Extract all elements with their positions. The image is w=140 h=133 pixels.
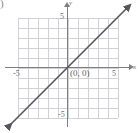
coordinate-plane-figure: ) (0, 0, 140, 133)
y-axis-label: y (69, 0, 72, 7)
y-tick-label-negative-5: -5 (58, 111, 65, 119)
x-axis-label: x (133, 64, 136, 71)
y-tick-label-positive-5: 5 (60, 13, 64, 21)
plotted-line-graphic (0, 0, 140, 133)
x-tick-label-negative-5: -5 (13, 70, 20, 78)
line-y-equals-x (9, 7, 128, 126)
x-tick-label-positive-5: 5 (112, 70, 116, 78)
origin-point-label: (0, 0) (70, 69, 90, 78)
